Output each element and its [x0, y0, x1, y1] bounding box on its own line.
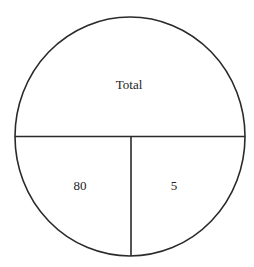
part-right-label: 5 — [171, 178, 178, 194]
number-bond-diagram — [0, 0, 254, 267]
whole-label: Total — [116, 77, 143, 93]
part-left-label: 80 — [74, 178, 87, 194]
